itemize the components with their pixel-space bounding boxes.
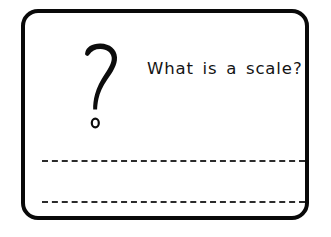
- question-mark-icon: [81, 41, 127, 131]
- answer-line-2[interactable]: [42, 201, 305, 203]
- question-header: What is a scale?: [25, 41, 305, 137]
- answer-line-1[interactable]: [42, 160, 305, 162]
- worksheet-card: What is a scale?: [21, 9, 309, 220]
- question-prompt-text: What is a scale?: [147, 61, 303, 78]
